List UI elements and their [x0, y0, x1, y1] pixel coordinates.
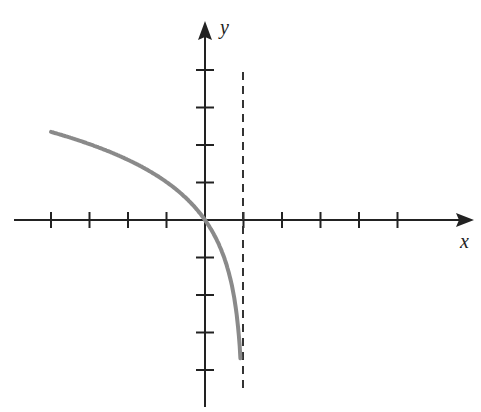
x-axis-label: x — [460, 230, 469, 253]
y-axis-label: y — [220, 16, 229, 39]
chart-svg — [0, 0, 481, 412]
function-curve — [51, 132, 240, 358]
